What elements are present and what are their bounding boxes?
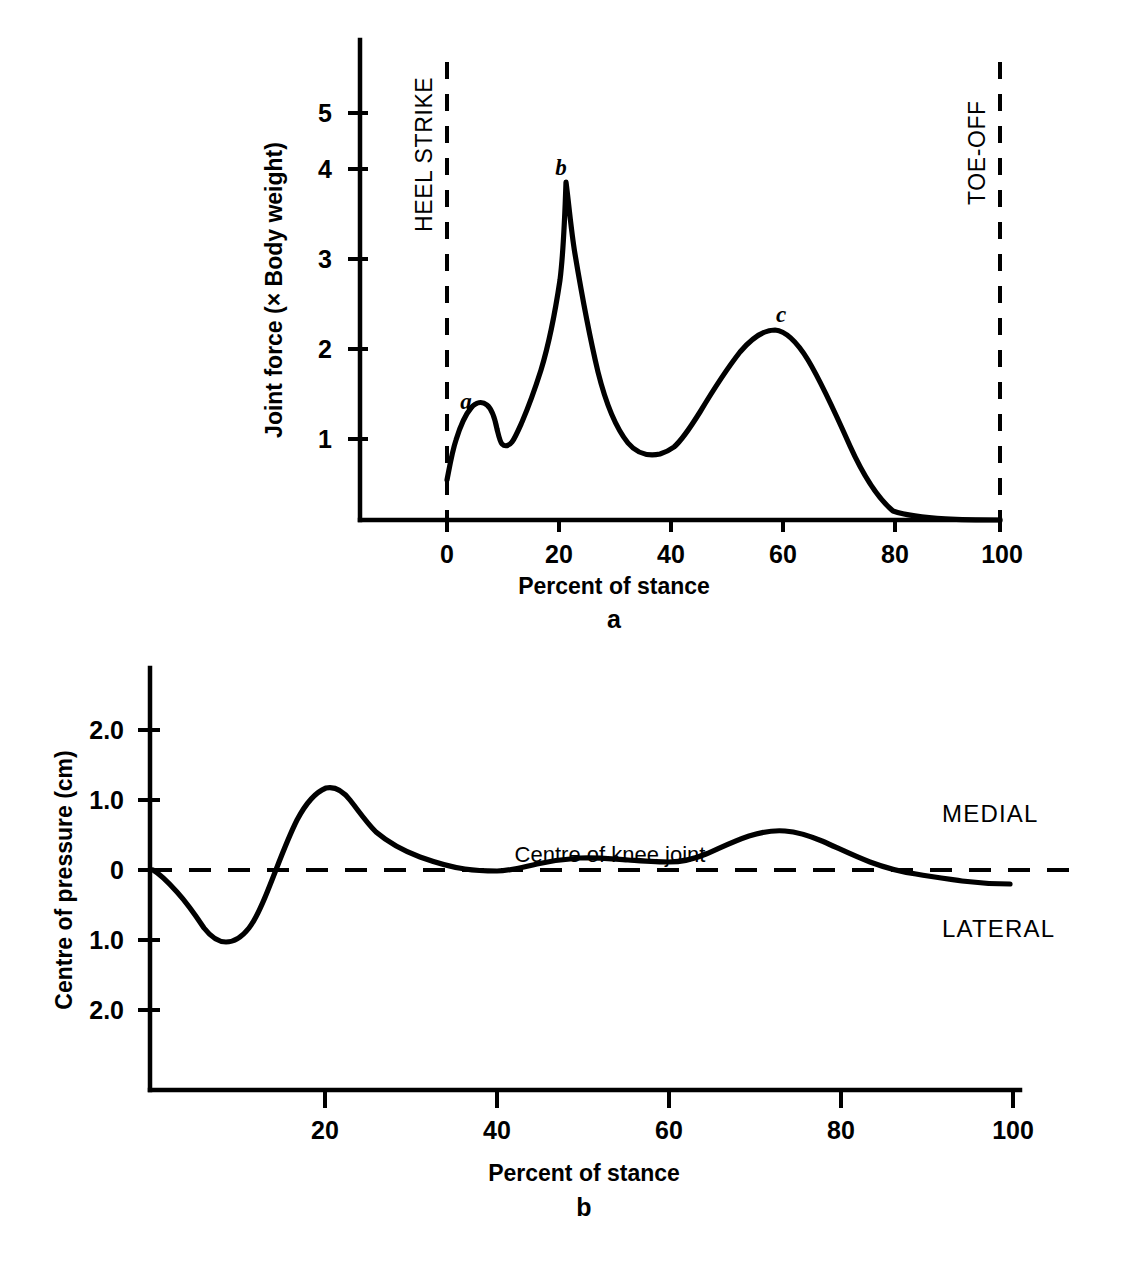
panel-b-xtick-20: 20	[311, 1116, 339, 1144]
lateral-label: LATERAL	[942, 915, 1055, 942]
panel-b-xtick-100: 100	[992, 1116, 1034, 1144]
panel-b-ytick-lateral-1: 1.0	[89, 926, 124, 954]
panel-b-xtick-80: 80	[827, 1116, 855, 1144]
panel-a-marker-b: b	[555, 155, 567, 180]
medial-label: MEDIAL	[942, 800, 1039, 827]
panel-a-ytick-3: 3	[318, 245, 332, 273]
panel-a-y-axis-title: Joint force (× Body weight)	[261, 142, 287, 438]
panel-b-xtick-60: 60	[655, 1116, 683, 1144]
panel-a-ytick-5: 5	[318, 99, 332, 127]
panel-a-xtick-80: 80	[881, 540, 909, 568]
panel-a-marker-a: a	[460, 389, 472, 414]
panel-a-ytick-2: 2	[318, 335, 332, 363]
panel-b-svg: 2.0 1.0 0 1.0 2.0 20 40 60 80 100 Centre…	[0, 640, 1143, 1272]
panel-a-xtick-40: 40	[657, 540, 685, 568]
panel-a-joint-force-chart: 1 2 3 4 5 0 20 40 60 80 100	[0, 0, 1143, 640]
panel-a-ytick-1: 1	[318, 425, 332, 453]
panel-a-letter: a	[607, 605, 622, 633]
panel-a-xtick-60: 60	[769, 540, 797, 568]
panel-b-ytick-lateral-2: 2.0	[89, 996, 124, 1024]
heel-strike-label: HEEL STRIKE	[411, 77, 437, 232]
panel-b-ytick-medial-2: 2.0	[89, 716, 124, 744]
panel-a-xtick-100: 100	[981, 540, 1023, 568]
panel-b-x-axis-title: Percent of stance	[488, 1160, 680, 1186]
panel-a-ytick-4: 4	[318, 155, 332, 183]
panel-a-xtick-20: 20	[545, 540, 573, 568]
panel-b-x-ticks	[325, 1090, 1013, 1108]
panel-a-marker-c: c	[776, 302, 786, 327]
panel-a-xtick-0: 0	[440, 540, 454, 568]
panel-b-centre-of-pressure-chart: 2.0 1.0 0 1.0 2.0 20 40 60 80 100 Centre…	[0, 640, 1143, 1272]
panel-a-x-axis-title: Percent of stance	[518, 573, 710, 599]
panel-a-svg: 1 2 3 4 5 0 20 40 60 80 100	[0, 0, 1143, 640]
panel-a-curve	[447, 182, 1000, 520]
panel-b-y-axis-title: Centre of pressure (cm)	[51, 750, 77, 1009]
panel-b-letter: b	[576, 1193, 591, 1221]
toe-off-label: TOE-OFF	[964, 100, 990, 205]
figure-root: 1 2 3 4 5 0 20 40 60 80 100	[0, 0, 1143, 1272]
panel-b-xtick-40: 40	[483, 1116, 511, 1144]
panel-b-ytick-zero: 0	[110, 856, 124, 884]
panel-b-ytick-medial-1: 1.0	[89, 786, 124, 814]
